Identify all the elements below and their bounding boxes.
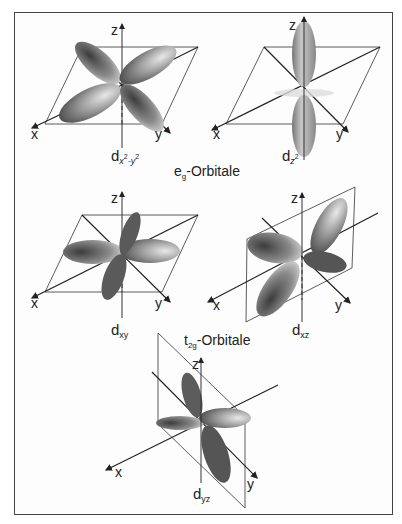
lobe: [303, 193, 355, 260]
z-axis-label: z: [111, 191, 118, 205]
lobe: [68, 35, 127, 92]
orbital-dxz: [208, 187, 378, 323]
y-axis-label: y: [335, 298, 342, 312]
z-axis-label: z: [289, 18, 296, 32]
x-axis-label: x: [31, 296, 38, 310]
lobe: [156, 416, 204, 430]
y-axis-label: y: [155, 296, 162, 310]
lobe: [301, 248, 348, 277]
y-axis-label: y: [336, 127, 343, 141]
orbital-dx2-y2: [27, 24, 198, 148]
lobe: [177, 370, 206, 419]
orbital-label-dx2-y2: dx2-y2: [111, 148, 139, 166]
lobe: [199, 408, 251, 428]
group-title-t2g: t2g-Orbitale: [184, 333, 250, 350]
y-axis-label: y: [247, 477, 254, 491]
x-axis-label: x: [31, 127, 38, 141]
orbital-diagrams: [0, 0, 402, 524]
orbital-label-dxz: dxz: [292, 322, 309, 340]
x-axis-label: x: [115, 465, 122, 479]
group-title-eg: eg-Orbitale: [174, 164, 240, 181]
z-axis-label: z: [291, 191, 298, 205]
orbital-dz2: [212, 17, 380, 160]
z-axis-label: z: [111, 23, 118, 37]
x-axis-label: x: [213, 298, 220, 312]
y-axis-label: y: [155, 127, 162, 141]
orbital-dxy: [32, 192, 198, 318]
orbital-label-dyz: dyz: [193, 486, 210, 504]
orbital-label-dz2: dz2: [282, 148, 299, 166]
x-axis-label: x: [213, 127, 220, 141]
orbital-label-dxy: dxy: [111, 322, 128, 340]
z-axis-label: z: [192, 357, 199, 371]
lobe: [245, 228, 305, 267]
lobe: [195, 422, 236, 486]
